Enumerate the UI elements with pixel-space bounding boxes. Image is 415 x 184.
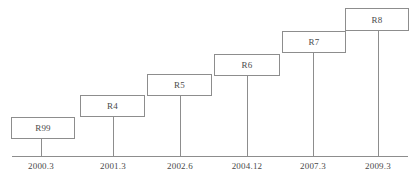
milestone-box-r5: R5 — [147, 74, 212, 96]
milestone-label: R8 — [372, 15, 383, 25]
date-label-2004-12: 2004.12 — [217, 161, 277, 171]
milestone-label: R7 — [309, 37, 320, 47]
release-timeline-diagram: R99 R4 R5 R6 R7 R8 2000.3 2001.3 2002.6 … — [0, 0, 415, 184]
date-label-2001-3: 2001.3 — [83, 161, 143, 171]
leader-line-r6 — [247, 76, 248, 156]
milestone-label: R5 — [174, 80, 185, 90]
milestone-box-r7: R7 — [282, 31, 346, 53]
leader-line-r7 — [313, 53, 314, 156]
leader-line-r8 — [378, 31, 379, 156]
milestone-box-r4: R4 — [80, 95, 145, 117]
milestone-label: R99 — [35, 123, 51, 133]
date-label-2000-3: 2000.3 — [11, 161, 71, 171]
leader-line-r5 — [180, 96, 181, 156]
date-label-2002-6: 2002.6 — [150, 161, 210, 171]
leader-line-r4 — [113, 117, 114, 156]
date-label-2009-3: 2009.3 — [348, 161, 408, 171]
milestone-box-r99: R99 — [11, 117, 75, 139]
milestone-label: R6 — [242, 60, 253, 70]
leader-line-r99 — [41, 139, 42, 156]
timeline-axis — [12, 156, 408, 157]
milestone-box-r8: R8 — [345, 8, 409, 31]
milestone-label: R4 — [107, 101, 118, 111]
milestone-box-r6: R6 — [214, 54, 280, 76]
date-label-2007-3: 2007.3 — [283, 161, 343, 171]
